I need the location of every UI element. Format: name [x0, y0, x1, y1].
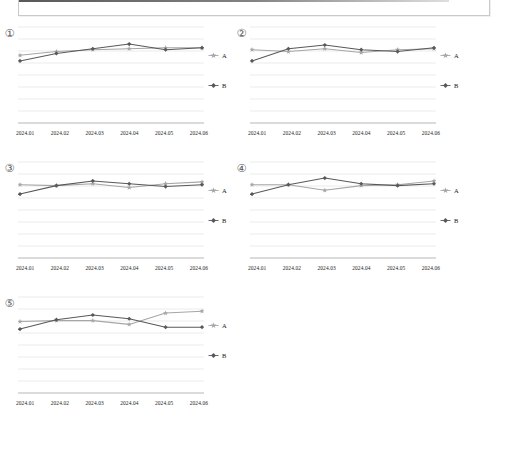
data-point-marker: [91, 179, 95, 183]
x-tick-label: 2024.03: [86, 130, 104, 136]
x-tick-label: 2024.05: [387, 265, 405, 271]
x-tick-label: 2024.05: [155, 265, 173, 271]
chart-grid: ① 2024.01 2024.02 2024.03 2024.04 2024.0…: [0, 22, 508, 452]
panel-progress-bar: [19, 0, 449, 2]
legend-4: A B: [440, 185, 484, 245]
x-axis-labels-1: 2024.01 2024.02 2024.03 2024.04 2024.05 …: [16, 130, 208, 136]
legend-item-a[interactable]: A: [440, 50, 484, 61]
legend-label-a: A: [222, 322, 227, 329]
x-tick-label: 2024.05: [155, 130, 173, 136]
data-point-marker: [323, 176, 327, 180]
data-point-marker: [250, 192, 254, 196]
legend-item-a[interactable]: A: [208, 320, 252, 331]
data-point-marker: [127, 46, 132, 51]
legend-label-a: A: [454, 52, 459, 59]
x-tick-label: 2024.01: [248, 265, 266, 271]
line-chart-4: [250, 159, 436, 262]
legend-label-a: A: [222, 52, 227, 59]
line-chart-2: [250, 24, 436, 127]
data-point-marker: [163, 310, 168, 315]
data-point-marker: [323, 43, 327, 47]
data-point-marker: [18, 192, 22, 196]
data-point-marker: [127, 182, 131, 186]
line-chart-1: [18, 24, 204, 127]
x-tick-label: 2024.06: [422, 130, 440, 136]
data-point-marker: [127, 42, 131, 46]
x-tick-label: 2024.06: [422, 265, 440, 271]
x-tick-label: 2024.03: [86, 265, 104, 271]
cut-off-toolbar-panel: [18, 0, 490, 16]
star-marker-icon: [440, 185, 451, 196]
chart-index-4: ④: [234, 161, 249, 176]
x-tick-label: 2024.03: [86, 400, 104, 406]
line-chart-5: [18, 294, 204, 397]
star-marker-icon: [440, 50, 451, 61]
chart-panel-1: ① 2024.01 2024.02 2024.03 2024.04 2024.0…: [0, 22, 254, 157]
x-tick-label: 2024.04: [120, 130, 138, 136]
chart-index-2: ②: [234, 26, 249, 41]
diamond-marker-icon: [208, 350, 219, 361]
legend-item-a[interactable]: A: [440, 185, 484, 196]
data-point-marker: [90, 318, 95, 323]
plot-area-3: [18, 159, 204, 262]
x-tick-label: 2024.06: [190, 265, 208, 271]
star-marker-icon: [208, 185, 219, 196]
data-point-marker: [127, 322, 132, 327]
data-point-marker: [91, 313, 95, 317]
x-tick-label: 2024.05: [387, 130, 405, 136]
legend-item-b[interactable]: B: [440, 215, 484, 226]
chart-panel-2: ② 2024.01 2024.02 2024.03 2024.04 2024.0…: [232, 22, 486, 157]
x-tick-label: 2024.04: [352, 130, 370, 136]
x-tick-label: 2024.06: [190, 400, 208, 406]
diamond-marker-icon: [440, 80, 451, 91]
x-tick-label: 2024.02: [51, 130, 69, 136]
data-point-marker: [322, 188, 327, 193]
x-tick-label: 2024.04: [352, 265, 370, 271]
x-tick-label: 2024.02: [51, 400, 69, 406]
chart-panel-3: ③ 2024.01 2024.02 2024.03 2024.04 2024.0…: [0, 157, 254, 292]
chart-panel-5: ⑤ 2024.01 2024.02 2024.03 2024.04 2024.0…: [0, 292, 254, 427]
x-tick-label: 2024.01: [248, 130, 266, 136]
data-point-marker: [200, 325, 204, 329]
x-axis-labels-2: 2024.01 2024.02 2024.03 2024.04 2024.05 …: [248, 130, 440, 136]
chart-index-1: ①: [2, 26, 17, 41]
diamond-marker-icon: [440, 215, 451, 226]
x-tick-label: 2024.02: [283, 130, 301, 136]
data-point-marker: [432, 182, 436, 186]
legend-item-b[interactable]: B: [440, 80, 484, 91]
x-axis-labels-5: 2024.01 2024.02 2024.03 2024.04 2024.05 …: [16, 400, 208, 406]
legend-item-b[interactable]: B: [208, 350, 252, 361]
x-tick-label: 2024.01: [16, 265, 34, 271]
data-point-marker: [164, 325, 168, 329]
legend-label-a: A: [454, 187, 459, 194]
x-tick-label: 2024.04: [120, 265, 138, 271]
chart-index-5: ⑤: [2, 296, 17, 311]
plot-area-2: [250, 24, 436, 127]
chart-panel-4: ④ 2024.01 2024.02 2024.03 2024.04 2024.0…: [232, 157, 486, 292]
legend-label-b: B: [454, 217, 458, 224]
legend-5: A B: [208, 320, 252, 380]
legend-label-b: B: [222, 82, 226, 89]
line-chart-3: [18, 159, 204, 262]
series-line-B: [252, 45, 434, 61]
legend-2: A B: [440, 50, 484, 110]
diamond-marker-icon: [208, 215, 219, 226]
x-tick-label: 2024.06: [190, 130, 208, 136]
star-marker-icon: [208, 320, 219, 331]
x-axis-labels-3: 2024.01 2024.02 2024.03 2024.04 2024.05 …: [16, 265, 208, 271]
legend-label-a: A: [222, 187, 227, 194]
x-tick-label: 2024.01: [16, 400, 34, 406]
x-tick-label: 2024.05: [155, 400, 173, 406]
data-point-marker: [127, 317, 131, 321]
x-tick-label: 2024.01: [16, 130, 34, 136]
data-point-marker: [164, 184, 168, 188]
legend-label-b: B: [222, 352, 226, 359]
data-point-marker: [18, 59, 22, 63]
data-point-marker: [18, 327, 22, 331]
plot-area-1: [18, 24, 204, 127]
x-tick-label: 2024.02: [51, 265, 69, 271]
x-tick-label: 2024.02: [283, 265, 301, 271]
legend-label-b: B: [222, 217, 226, 224]
legend-label-b: B: [454, 82, 458, 89]
plot-area-5: [18, 294, 204, 397]
